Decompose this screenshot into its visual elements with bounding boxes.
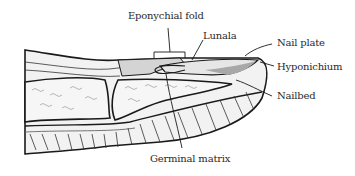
eponychial-fold-bracket [154, 52, 185, 58]
label-hyponichium: Hyponichium [277, 61, 342, 72]
label-germinal-matrix: Germinal matrix [150, 153, 230, 164]
leader-nail-plate [245, 44, 272, 56]
leader-lunala [192, 40, 203, 60]
label-lunala: Lunala [203, 30, 236, 41]
leader-eponychial-fold [168, 28, 170, 52]
middle-phalanx-bone [25, 78, 110, 122]
label-nail-plate: Nail plate [277, 37, 325, 48]
finger-cross-section-illustration [0, 0, 355, 176]
label-eponychial-fold: Eponychial fold [128, 10, 204, 21]
label-nailbed: Nailbed [277, 90, 315, 101]
